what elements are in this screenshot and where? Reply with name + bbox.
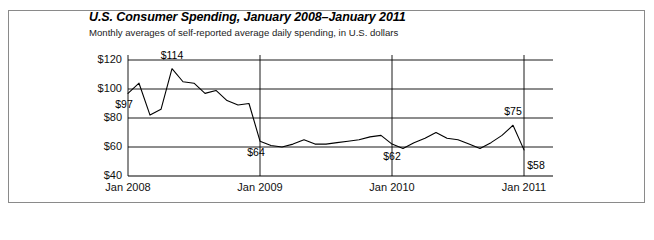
data-label-114: $114 xyxy=(152,49,192,61)
data-label-62: $62 xyxy=(372,150,412,162)
y-tick-80: $80 xyxy=(76,111,122,123)
y-tick-100: $100 xyxy=(76,82,122,94)
data-label-75: $75 xyxy=(493,105,533,117)
spending-line xyxy=(128,69,524,150)
data-label-97: $97 xyxy=(104,98,144,110)
x-tick-2009-01: Jan 2009 xyxy=(215,181,305,193)
data-label-58: $58 xyxy=(516,159,556,171)
y-tick-40: $40 xyxy=(76,169,122,181)
gridlines xyxy=(128,55,553,176)
x-tick-2010-01: Jan 2010 xyxy=(347,181,437,193)
x-tick-2011-01: Jan 2011 xyxy=(479,181,569,193)
y-tick-120: $120 xyxy=(76,53,122,65)
y-tick-60: $60 xyxy=(76,140,122,152)
data-label-64: $64 xyxy=(236,146,276,158)
x-tick-2008-01: Jan 2008 xyxy=(83,181,173,193)
